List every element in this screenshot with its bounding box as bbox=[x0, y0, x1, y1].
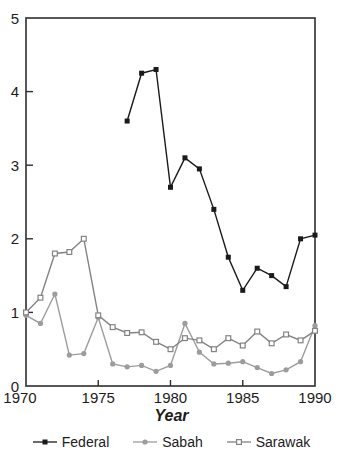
series-line bbox=[26, 294, 315, 373]
open-square-marker bbox=[298, 338, 303, 343]
open-square-marker bbox=[24, 310, 29, 315]
open-square-marker bbox=[313, 328, 318, 333]
filled-circle-marker bbox=[139, 363, 144, 368]
filled-circle-marker bbox=[168, 363, 173, 368]
open-square-marker bbox=[211, 347, 216, 352]
filled-square-marker bbox=[154, 67, 159, 72]
series-sabah bbox=[23, 291, 317, 376]
legend-item-federal: Federal bbox=[33, 434, 109, 450]
filled-circle-marker bbox=[255, 365, 260, 370]
filled-circle-marker bbox=[110, 361, 115, 366]
legend-label: Sabah bbox=[162, 434, 202, 450]
filled-circle-marker bbox=[312, 323, 317, 328]
filled-square-marker bbox=[197, 166, 202, 171]
filled-circle-marker bbox=[182, 321, 187, 326]
open-square-marker bbox=[284, 332, 289, 337]
open-square-marker bbox=[125, 331, 130, 336]
filled-square-marker bbox=[42, 440, 47, 445]
filled-square-marker bbox=[125, 119, 130, 124]
x-axis-title: Year bbox=[0, 407, 343, 425]
x-tick-label: 1975 bbox=[82, 389, 115, 406]
x-tick-label: 1970 bbox=[3, 389, 36, 406]
filled-circle-marker bbox=[211, 361, 216, 366]
series-line bbox=[127, 70, 315, 291]
filled-square-marker bbox=[226, 255, 231, 260]
filled-circle-marker bbox=[197, 350, 202, 355]
x-tick-label: 1980 bbox=[154, 389, 187, 406]
open-square-marker bbox=[53, 251, 58, 256]
x-tick-label: 1985 bbox=[226, 389, 259, 406]
filled-square-marker bbox=[182, 155, 187, 160]
open-square-marker bbox=[240, 343, 245, 348]
series-line bbox=[26, 239, 315, 349]
legend-item-sabah: Sabah bbox=[133, 434, 202, 450]
filled-circle-marker bbox=[125, 364, 130, 369]
filled-circle-marker bbox=[143, 439, 148, 444]
filled-circle-marker bbox=[38, 321, 43, 326]
plot-border bbox=[26, 18, 315, 386]
legend-label: Federal bbox=[62, 434, 109, 450]
open-square-marker bbox=[255, 329, 260, 334]
filled-square-marker bbox=[211, 207, 216, 212]
open-square-marker bbox=[67, 250, 72, 255]
filled-square-marker bbox=[313, 233, 318, 238]
open-square-marker bbox=[197, 338, 202, 343]
open-square-icon bbox=[227, 437, 251, 447]
line-chart: 01234519701975198019851990 bbox=[0, 0, 343, 406]
filled-square-marker bbox=[269, 273, 274, 278]
filled-square-marker bbox=[298, 236, 303, 241]
filled-square-marker bbox=[255, 266, 260, 271]
open-square-marker bbox=[81, 236, 86, 241]
x-tick-label: 1990 bbox=[298, 389, 331, 406]
legend-item-sarawak: Sarawak bbox=[227, 434, 310, 450]
chart-figure: 01234519701975198019851990 Year FederalS… bbox=[0, 0, 343, 463]
open-square-marker bbox=[236, 440, 241, 445]
filled-circle-marker bbox=[284, 367, 289, 372]
filled-circle-marker bbox=[52, 291, 57, 296]
filled-square-marker bbox=[240, 288, 245, 293]
filled-circle-marker bbox=[153, 369, 158, 374]
filled-circle-marker bbox=[240, 359, 245, 364]
filled-circle-marker bbox=[67, 352, 72, 357]
filled-square-marker bbox=[168, 185, 173, 190]
open-square-marker bbox=[96, 313, 101, 318]
open-square-marker bbox=[38, 295, 43, 300]
open-square-marker bbox=[226, 336, 231, 341]
filled-square-icon bbox=[33, 437, 57, 447]
series-federal bbox=[125, 67, 318, 293]
filled-square-marker bbox=[139, 71, 144, 76]
filled-circle-icon bbox=[133, 437, 157, 447]
open-square-marker bbox=[154, 339, 159, 344]
y-tick-label: 5 bbox=[11, 10, 19, 27]
filled-square-marker bbox=[284, 284, 289, 289]
open-square-marker bbox=[183, 336, 188, 341]
series-sarawak bbox=[24, 236, 318, 351]
open-square-marker bbox=[168, 347, 173, 352]
filled-circle-marker bbox=[226, 361, 231, 366]
filled-circle-marker bbox=[298, 359, 303, 364]
y-tick-label: 4 bbox=[11, 83, 19, 100]
open-square-marker bbox=[269, 341, 274, 346]
open-square-marker bbox=[139, 330, 144, 335]
filled-circle-marker bbox=[269, 371, 274, 376]
legend-label: Sarawak bbox=[256, 434, 310, 450]
filled-circle-marker bbox=[81, 351, 86, 356]
chart-legend: FederalSabahSarawak bbox=[0, 434, 343, 450]
open-square-marker bbox=[110, 325, 115, 330]
y-tick-label: 1 bbox=[11, 304, 19, 321]
y-tick-label: 3 bbox=[11, 157, 19, 174]
y-tick-label: 2 bbox=[11, 230, 19, 247]
